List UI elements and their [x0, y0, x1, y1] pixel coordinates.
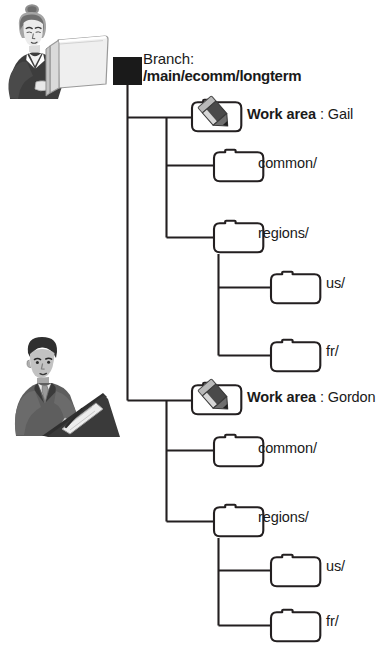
work-area-folder-gordon[interactable] [192, 379, 241, 416]
folder-label-fr-gail: fr/ [326, 343, 339, 359]
work-area-label-gordon: Work area : Gordon [247, 389, 376, 405]
branch-label-line2: /main/ecomm/longterm [143, 68, 301, 85]
branch-root-node[interactable] [113, 57, 142, 85]
folder-us-gordon[interactable] [271, 555, 320, 587]
person-writing-icon [4, 333, 120, 437]
folder-label-fr-gordon: fr/ [326, 613, 339, 629]
folder-label-regions-gordon: regions/ [258, 509, 309, 525]
folder-common-gordon[interactable] [214, 435, 263, 467]
folder-label-common-gail: common/ [258, 155, 317, 171]
branch-label-line1: Branch: [143, 51, 301, 68]
branch-root-label: Branch: /main/ecomm/longterm [143, 51, 301, 85]
folder-common-gail[interactable] [214, 150, 263, 182]
folder-label-common-gordon: common/ [258, 440, 317, 456]
folder-fr-gordon[interactable] [271, 610, 320, 642]
folder-label-us-gordon: us/ [326, 558, 345, 574]
folder-us-gail[interactable] [271, 272, 320, 304]
folder-label-us-gail: us/ [326, 275, 345, 291]
folder-regions-gordon[interactable] [214, 505, 263, 537]
folder-regions-gail[interactable] [214, 221, 263, 253]
work-area-folder-gail[interactable] [192, 96, 241, 133]
work-area-label-gail-owner: : Gail [316, 106, 353, 122]
work-area-label-gordon-bold: Work area [247, 389, 316, 405]
work-area-label-gordon-owner: : Gordon [316, 389, 376, 405]
folder-fr-gail[interactable] [271, 340, 320, 372]
work-area-label-gail-bold: Work area [247, 106, 316, 122]
folder-label-regions-gail: regions/ [258, 225, 309, 241]
person-reading-icon [2, 2, 110, 100]
diagram-canvas: Branch: /main/ecomm/longterm Work area :… [0, 0, 389, 647]
work-area-label-gail: Work area : Gail [247, 106, 353, 122]
